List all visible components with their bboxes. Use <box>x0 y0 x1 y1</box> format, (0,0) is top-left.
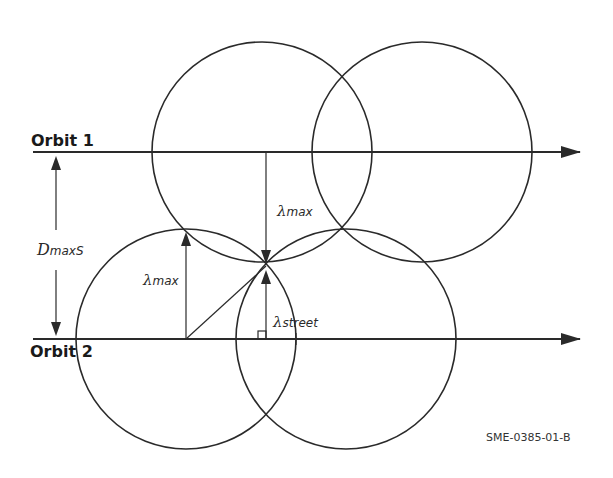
lambda-street-subscript: street <box>283 316 318 330</box>
radius-line <box>186 266 266 339</box>
dmax-label: DmaxS <box>37 240 84 259</box>
figure-id: SME-0385-01-B <box>486 431 570 444</box>
lambda-max-subscript: max <box>287 205 313 219</box>
lambda-max-subscript: max <box>153 274 179 288</box>
dmax-symbol: D <box>37 240 50 259</box>
lambda-symbol: λ <box>277 202 287 220</box>
lambda-symbol: λ <box>143 271 153 289</box>
lambda-symbol: λ <box>273 313 283 331</box>
orbit-1-label: Orbit 1 <box>31 131 94 150</box>
lambda-street-label: λstreet <box>273 312 318 331</box>
lambda-max-label-left: λmax <box>143 270 179 289</box>
coverage-diagram <box>0 0 613 478</box>
lambda-max-label-top: λmax <box>277 201 313 220</box>
right-angle-marker <box>258 331 266 339</box>
orbit-2-label: Orbit 2 <box>30 342 93 361</box>
dmax-subscript: maxS <box>50 244 84 258</box>
